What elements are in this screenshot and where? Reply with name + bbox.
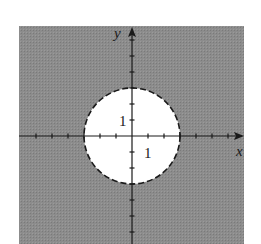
region-plot: x y 1 1 bbox=[0, 0, 261, 244]
x-tick-label-1: 1 bbox=[144, 145, 152, 161]
x-axis-label: x bbox=[235, 143, 243, 159]
y-axis-label: y bbox=[112, 25, 121, 41]
y-tick-label-1: 1 bbox=[119, 113, 127, 129]
